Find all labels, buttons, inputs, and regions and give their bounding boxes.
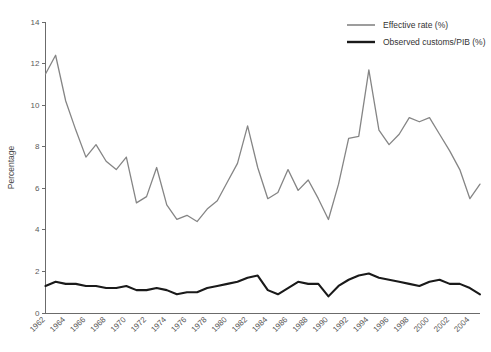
- data-series-group: [46, 55, 481, 296]
- x-tick-label-1980: 1980: [210, 315, 229, 334]
- x-axis: 1962196419661968197019721974197619781980…: [28, 315, 472, 334]
- x-tick-label-1988: 1988: [291, 315, 310, 334]
- axis-titles: Percentage: [6, 145, 16, 189]
- y-tick-label-8: 8: [35, 142, 40, 151]
- x-tick-label-1964: 1964: [48, 315, 67, 334]
- x-tick-label-1974: 1974: [149, 315, 168, 334]
- x-tick-label-1970: 1970: [109, 315, 128, 334]
- y-tick-label-14: 14: [31, 18, 40, 27]
- x-tick-label-1982: 1982: [230, 315, 249, 334]
- x-tick-label-1986: 1986: [270, 315, 289, 334]
- x-tick-label-1966: 1966: [68, 315, 87, 334]
- x-tick-label-1998: 1998: [392, 315, 411, 334]
- x-tick-label-1992: 1992: [331, 315, 350, 334]
- y-tick-label-6: 6: [35, 184, 40, 193]
- x-tick-label-1978: 1978: [190, 315, 209, 334]
- x-tick-label-1972: 1972: [129, 315, 148, 334]
- x-tick-label-1984: 1984: [250, 315, 269, 334]
- line-chart: 02468101214 1962196419661968197019721974…: [0, 0, 491, 352]
- y-axis-title: Percentage: [6, 145, 16, 189]
- y-axis: 02468101214: [31, 18, 480, 318]
- y-tick-label-2: 2: [35, 267, 40, 276]
- y-tick-label-10: 10: [31, 101, 40, 110]
- x-tick-label-1962: 1962: [28, 315, 47, 334]
- x-tick-label-1968: 1968: [89, 315, 108, 334]
- x-tick-label-2004: 2004: [452, 315, 471, 334]
- series-line-effective-rate: [46, 55, 481, 221]
- x-tick-label-1976: 1976: [169, 315, 188, 334]
- x-tick-label-1996: 1996: [372, 315, 391, 334]
- chart-container: 02468101214 1962196419661968197019721974…: [0, 0, 491, 352]
- series-line-observed-customs-pib: [46, 274, 481, 297]
- x-tick-label-2002: 2002: [432, 315, 451, 334]
- legend-label-effective-rate: Effective rate (%): [383, 20, 448, 30]
- x-tick-label-1994: 1994: [351, 315, 370, 334]
- y-tick-label-12: 12: [31, 59, 40, 68]
- x-tick-label-2000: 2000: [412, 315, 431, 334]
- x-tick-label-1990: 1990: [311, 315, 330, 334]
- legend-label-observed-customs-pib: Observed customs/PIB (%): [383, 37, 486, 47]
- axis-lines: [46, 22, 481, 313]
- chart-legend: Effective rate (%)Observed customs/PIB (…: [347, 20, 486, 47]
- y-tick-label-4: 4: [35, 225, 40, 234]
